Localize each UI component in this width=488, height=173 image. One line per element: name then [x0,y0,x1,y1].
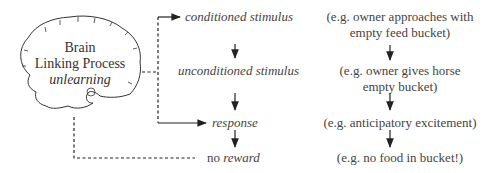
no-reward-emph: reward [223,150,260,165]
response-label: response [212,115,258,131]
unconditioned-stimulus-label: unconditioned stimulus [178,63,299,79]
no-reward-label: no reward [207,150,260,166]
brain-title-1: Brain [30,40,130,56]
brain-title-2: Linking Process [30,56,130,72]
example-1-line-1: (e.g. owner approaches with [318,9,482,25]
example-2-line-1: (e.g. owner gives horse [318,63,482,79]
example-1: (e.g. owner approaches with empty feed b… [318,9,482,41]
example-4: (e.g. no food in bucket!) [318,150,482,166]
example-1-line-2: empty feed bucket) [318,25,482,41]
conditioned-stimulus-label: conditioned stimulus [185,9,293,25]
example-2-line-2: empty bucket) [318,79,482,95]
example-2: (e.g. owner gives horse empty bucket) [318,63,482,95]
no-reward-prefix: no [207,150,220,165]
example-3: (e.g. anticipatory excitement) [318,115,482,131]
brain-subtitle: unlearning [30,72,130,88]
